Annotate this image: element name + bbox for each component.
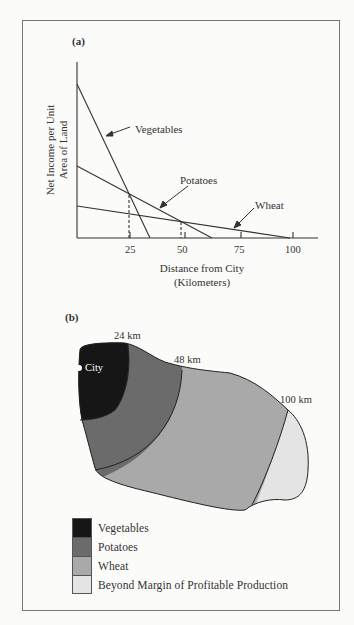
legend-swatch [72, 556, 92, 575]
ring-label-24km: 24 km [114, 330, 141, 341]
tick-75: 75 [234, 244, 245, 255]
city-label: City [85, 362, 104, 373]
vegetables-line-label: Vegetables [135, 123, 183, 135]
legend-swatch [72, 537, 92, 556]
panel-b-label: (b) [65, 311, 79, 324]
y-axis-label: Net Income per Unit [44, 105, 56, 196]
legend-label: Potatoes [98, 541, 138, 553]
city-marker-icon [76, 365, 82, 371]
legend-item-wheat: Wheat [72, 556, 288, 575]
legend-item-potatoes: Potatoes [72, 537, 288, 556]
potatoes-line-label: Potatoes [180, 174, 217, 186]
legend-item-beyond-margin: Beyond Margin of Profitable Production [72, 575, 288, 594]
x-axis-label: Distance from City [160, 262, 245, 274]
legend-item-vegetables: Vegetables [72, 518, 288, 537]
chart-lines [77, 84, 290, 238]
legend-label: Wheat [98, 560, 129, 572]
tick-25: 25 [125, 244, 136, 255]
legend-swatch [72, 575, 92, 594]
legend-swatch [72, 518, 92, 537]
wheat-line-label: Wheat [255, 199, 284, 211]
y-axis-label-2: Area of Land [57, 120, 69, 179]
ring-label-100km: 100 km [280, 394, 312, 405]
map-legend: Vegetables Potatoes Wheat Beyond Margin … [72, 518, 288, 594]
tick-50: 50 [177, 244, 188, 255]
legend-label: Vegetables [98, 522, 149, 534]
x-axis-unit: (Kilometers) [174, 276, 231, 289]
ring-label-48km: 48 km [174, 354, 201, 365]
tick-100: 100 [285, 244, 301, 255]
legend-label: Beyond Margin of Profitable Production [98, 579, 288, 591]
panel-a-label: (a) [72, 35, 85, 48]
